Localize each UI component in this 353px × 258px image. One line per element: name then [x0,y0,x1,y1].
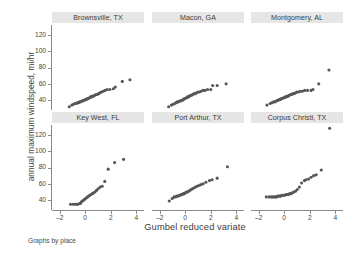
y-tick [48,35,51,36]
y-tick [48,184,51,185]
panel-brownsville-tx: Brownsville, TX406080100120 [52,12,144,110]
data-point [327,68,330,71]
y-tick-label: 120 [30,32,46,39]
data-point [106,88,109,91]
data-point [107,168,110,171]
data-point [114,86,117,89]
data-point [128,78,131,81]
panel-macon-ga: Macon, GA [152,12,244,110]
panel-title: Corpus Christi, TX [251,112,343,123]
data-point [317,82,320,85]
x-axis-line [52,210,144,211]
data-point [315,173,318,176]
panel-title: Port Arthur, TX [152,112,244,123]
x-tick-label: 2 [304,215,316,222]
data-point [303,89,306,92]
plot-area [152,25,244,110]
figure-footnote: Graphs by place [28,237,76,244]
panel-corpus-christi-tx: Corpus Christi, TX–2024 [251,112,343,210]
x-tick-label: 2 [205,215,217,222]
plot-area [52,125,144,210]
data-point [320,168,323,171]
data-point [216,177,219,180]
data-point [121,80,124,83]
data-point [226,165,229,168]
y-tick-label: 60 [30,181,46,188]
x-tick-label: 2 [105,215,117,222]
y-axis-line [51,125,52,210]
data-point [206,88,209,91]
x-tick-label: 4 [130,215,142,222]
panel-key-west-fl: Key West, FL406080100120–2024 [52,112,144,210]
y-tick-label: 40 [30,197,46,204]
y-tick [48,200,51,201]
plot-area [251,25,343,110]
y-tick [48,51,51,52]
data-point [298,186,301,189]
y-tick [48,100,51,101]
data-point [204,181,207,184]
data-point [122,158,125,161]
y-tick-label: 80 [30,64,46,71]
data-point [168,199,171,202]
data-point [310,176,313,179]
y-tick-label: 80 [30,164,46,171]
panel-title: Macon, GA [152,12,244,23]
x-tick-label: –2 [253,215,265,222]
plot-area [52,25,144,110]
y-tick-label: 100 [30,148,46,155]
panel-port-arthur-tx: Port Arthur, TX–2024 [152,112,244,210]
x-tick-label: 4 [230,215,242,222]
y-tick [48,151,51,152]
plot-area [152,125,244,210]
y-axis-line [51,25,52,110]
data-point [216,84,219,87]
data-point [300,181,303,184]
panel-title: Montgomery, AL [251,12,343,23]
panel-title: Key West, FL [52,112,144,123]
y-tick [48,84,51,85]
data-point [113,161,116,164]
x-tick-label: –2 [54,215,66,222]
y-tick-label: 60 [30,81,46,88]
data-point [265,104,268,107]
y-tick-label: 100 [30,48,46,55]
y-tick [48,135,51,136]
x-axis-line [251,210,343,211]
data-point [311,88,314,91]
panel-title: Brownsville, TX [52,12,144,23]
plot-area [251,125,343,210]
y-tick-label: 40 [30,97,46,104]
data-point [211,178,214,181]
data-point [225,82,228,85]
x-tick-label: 0 [79,215,91,222]
x-axis-line [152,210,244,211]
x-tick-label: 0 [179,215,191,222]
y-tick [48,68,51,69]
panel-montgomery-al: Montgomery, AL [251,12,343,110]
data-point [328,127,331,130]
data-point [211,84,214,87]
y-tick [48,168,51,169]
x-tick-label: 0 [278,215,290,222]
data-point [296,188,299,191]
x-tick-label: –2 [154,215,166,222]
data-point [209,88,212,91]
data-point [265,195,268,198]
data-point [167,105,170,108]
data-point [101,185,104,188]
chart-figure: annual maximum windspeed, mi/hr Gumbel r… [0,0,353,258]
data-point [68,105,71,108]
x-axis-title: Gumbel reduced variate [40,222,350,232]
data-point [202,182,205,185]
data-point [306,89,309,92]
y-tick-label: 120 [30,132,46,139]
data-point [103,180,106,183]
data-point [108,88,111,91]
x-tick-label: 4 [329,215,341,222]
data-point [307,177,310,180]
